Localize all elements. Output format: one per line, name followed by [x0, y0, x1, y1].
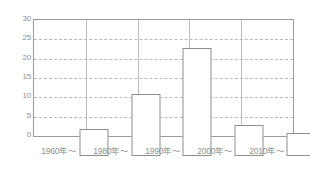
y-tick-label-30: 30: [9, 15, 31, 23]
y-tick-label-10: 10: [9, 92, 31, 100]
y-tick-label-15: 15: [9, 73, 31, 81]
plot-area: [33, 19, 294, 137]
x-tick-label-2: 1990年～: [137, 146, 189, 156]
bar-1990: [183, 48, 212, 156]
bar-slot-0: [68, 40, 120, 156]
y-axis: 30 25 20 15 10 5 0: [5, 19, 31, 137]
y-tick-label-0: 0: [9, 131, 31, 139]
x-tick-label-4: 2010年～: [241, 146, 293, 156]
bar-slot-1: [120, 40, 172, 156]
y-tick-label-20: 20: [9, 54, 31, 62]
y-tick-label-25: 25: [9, 34, 31, 42]
bar-slot-3: [223, 40, 275, 156]
bar-slot-4: [275, 40, 310, 156]
x-tick-label-1: 1980年～: [85, 146, 137, 156]
x-axis: 1960年～ 1980年～ 1990年～ 2000年～ 2010年～: [33, 146, 294, 162]
x-tick-label-0: 1960年～: [33, 146, 85, 156]
bars-layer: [68, 40, 310, 156]
bar-slot-2: [172, 40, 224, 156]
x-tick-label-3: 2000年～: [189, 146, 241, 156]
y-tick-label-5: 5: [9, 112, 31, 120]
bar-chart: 30 25 20 15 10 5 0: [0, 0, 310, 175]
